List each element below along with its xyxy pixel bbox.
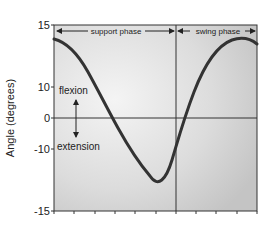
y-tick-10: 10 (38, 81, 50, 93)
y-tick-minus10: -10 (34, 143, 50, 155)
y-tick-0: 0 (44, 112, 50, 124)
swing-phase-label: swing phase (196, 27, 241, 36)
support-phase-label: support phase (91, 27, 142, 36)
chart: 15 10 0 -10 -15 Angle (degrees) support … (0, 0, 268, 229)
flexion-label: flexion (59, 85, 88, 96)
extension-label: extension (57, 141, 100, 152)
y-axis-label: Angle (degrees) (4, 79, 16, 157)
y-tick-minus15: -15 (34, 205, 50, 217)
y-tick-15: 15 (38, 19, 50, 31)
